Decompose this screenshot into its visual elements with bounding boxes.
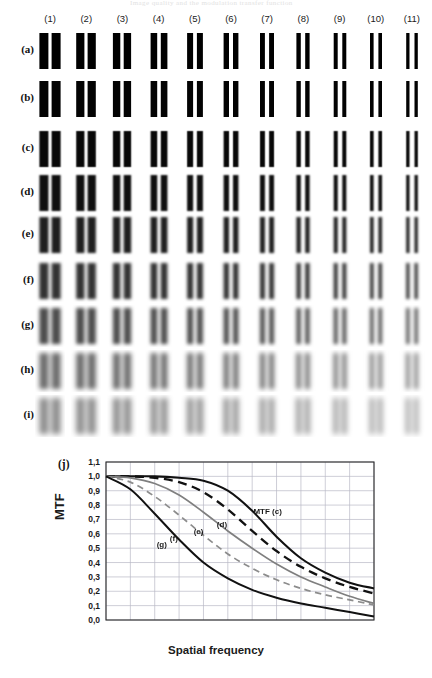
curve-label-e: (e) [194,527,204,536]
mtf-plot [0,0,432,678]
mtf-curves [106,476,374,616]
curve-label-d: (d) [217,520,227,529]
curve-label-g: (g) [157,540,167,549]
curve-annotation-0: (f) [170,534,178,543]
figure-root: Image quality and the modulation transfe… [0,0,432,678]
mtf-curve-g [106,476,374,616]
plot-gridlines [106,462,374,620]
curve-label-MTFc: MTF (c) [253,507,281,516]
plot-frame [106,462,374,620]
mtf-curve-MTFc [106,476,374,588]
